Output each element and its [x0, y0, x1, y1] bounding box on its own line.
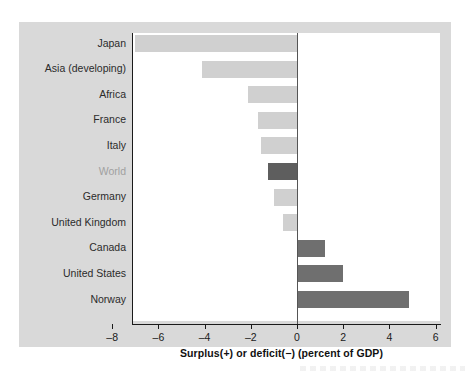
- x-tick-mark-0: [297, 324, 298, 329]
- category-label-norway: Norway: [19, 294, 126, 305]
- bar-japan: [135, 35, 297, 52]
- x-tick-label-6: 6: [433, 331, 439, 343]
- category-label-canada: Canada: [19, 242, 126, 253]
- x-tick-mark-2: [343, 324, 344, 329]
- category-label-italy: Italy: [19, 140, 126, 151]
- category-label-germany: Germany: [19, 191, 126, 202]
- bar-norway: [297, 291, 409, 308]
- bar-france: [258, 112, 297, 129]
- bar-united-kingdom: [283, 214, 297, 231]
- bar-italy: [261, 137, 297, 154]
- category-label-united-states: United States: [19, 268, 126, 279]
- x-tick-label-4: 4: [386, 331, 392, 343]
- x-axis-line: [132, 324, 441, 325]
- x-tick-label-2: 2: [340, 331, 346, 343]
- y-axis-line: [132, 33, 133, 325]
- x-axis-title: Surplus(+) or deficit(−) (percent of GDP…: [180, 347, 383, 359]
- x-tick-label-neg8: –8: [106, 331, 118, 343]
- x-tick-label-neg6: –6: [153, 331, 165, 343]
- bar-world: [268, 163, 297, 180]
- category-label-france: France: [19, 114, 126, 125]
- x-tick-mark-neg6: [158, 324, 159, 329]
- x-tick-mark-6: [436, 324, 437, 329]
- bar-canada: [297, 240, 325, 257]
- x-tick-mark-neg8: [112, 324, 113, 329]
- x-tick-mark-4: [389, 324, 390, 329]
- category-label-asia-developing: Asia (developing): [19, 63, 126, 74]
- x-tick-label-0: 0: [294, 331, 300, 343]
- chart-figure-panel: JapanAsia (developing)AfricaFranceItalyW…: [19, 22, 451, 347]
- x-tick-mark-neg2: [251, 324, 252, 329]
- category-label-africa: Africa: [19, 89, 126, 100]
- x-tick-label-neg4: –4: [199, 331, 211, 343]
- category-label-world: World: [19, 166, 126, 177]
- bar-united-states: [297, 265, 343, 282]
- x-tick-label-neg2: –2: [245, 331, 257, 343]
- bar-africa: [248, 86, 297, 103]
- category-label-united-kingdom: United Kingdom: [19, 217, 126, 228]
- x-tick-mark-neg4: [205, 324, 206, 329]
- bar-germany: [274, 189, 297, 206]
- bar-asia-developing: [202, 61, 297, 78]
- page-bottom-artifact: [300, 366, 465, 371]
- category-label-japan: Japan: [19, 38, 126, 49]
- zero-reference-line: [297, 33, 298, 324]
